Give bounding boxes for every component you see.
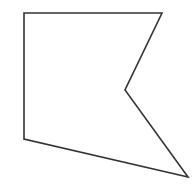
diagram-canvas <box>0 0 196 195</box>
pentagon-outline <box>24 13 188 177</box>
polygon-figure <box>0 0 196 195</box>
